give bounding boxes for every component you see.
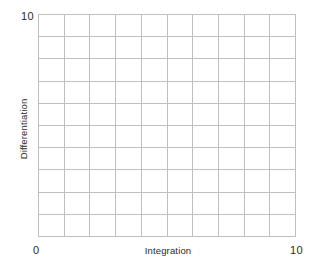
grid-cell[interactable] xyxy=(193,15,219,37)
grid-cell[interactable] xyxy=(270,82,296,104)
grid-cell[interactable] xyxy=(116,15,142,37)
grid-cell[interactable] xyxy=(245,126,271,148)
grid-cell[interactable] xyxy=(39,170,65,192)
grid-cell[interactable] xyxy=(116,170,142,192)
grid-cell[interactable] xyxy=(270,126,296,148)
grid-cell[interactable] xyxy=(65,215,91,237)
grid-cell[interactable] xyxy=(90,37,116,59)
grid-cell[interactable] xyxy=(39,59,65,81)
grid-cell[interactable] xyxy=(142,148,168,170)
grid-cell[interactable] xyxy=(142,82,168,104)
grid-cell[interactable] xyxy=(39,215,65,237)
grid-cell[interactable] xyxy=(116,37,142,59)
grid-cell[interactable] xyxy=(245,215,271,237)
grid-cell[interactable] xyxy=(39,148,65,170)
grid-cell[interactable] xyxy=(193,148,219,170)
grid-cell[interactable] xyxy=(270,37,296,59)
grid-cell[interactable] xyxy=(168,148,194,170)
grid-cell[interactable] xyxy=(142,126,168,148)
grid-cell[interactable] xyxy=(193,104,219,126)
grid-cell[interactable] xyxy=(39,104,65,126)
grid-cell[interactable] xyxy=(116,104,142,126)
grid-cell[interactable] xyxy=(270,170,296,192)
grid-cell[interactable] xyxy=(65,15,91,37)
grid-cell[interactable] xyxy=(90,193,116,215)
grid-cell[interactable] xyxy=(219,104,245,126)
grid-cell[interactable] xyxy=(90,215,116,237)
grid-cell[interactable] xyxy=(219,15,245,37)
grid-cell[interactable] xyxy=(65,104,91,126)
grid-cell[interactable] xyxy=(168,104,194,126)
grid-cell[interactable] xyxy=(116,59,142,81)
grid-cell[interactable] xyxy=(90,148,116,170)
grid-cell[interactable] xyxy=(219,148,245,170)
grid-cell[interactable] xyxy=(142,37,168,59)
grid-cell[interactable] xyxy=(39,126,65,148)
grid-cell[interactable] xyxy=(193,37,219,59)
grid-cell[interactable] xyxy=(90,59,116,81)
grid-cell[interactable] xyxy=(116,148,142,170)
grid-cell[interactable] xyxy=(270,148,296,170)
grid-cell[interactable] xyxy=(219,126,245,148)
grid-cell[interactable] xyxy=(65,170,91,192)
grid-cell[interactable] xyxy=(219,215,245,237)
grid-cell[interactable] xyxy=(142,104,168,126)
grid-cell[interactable] xyxy=(90,15,116,37)
grid-cell[interactable] xyxy=(168,82,194,104)
grid-cell[interactable] xyxy=(39,15,65,37)
grid-cell[interactable] xyxy=(142,215,168,237)
grid-cell[interactable] xyxy=(193,215,219,237)
grid-cell[interactable] xyxy=(219,59,245,81)
grid-cell[interactable] xyxy=(193,170,219,192)
grid-cell[interactable] xyxy=(245,170,271,192)
grid-cell[interactable] xyxy=(90,170,116,192)
grid-cell[interactable] xyxy=(168,193,194,215)
grid-cell[interactable] xyxy=(90,104,116,126)
grid-cell[interactable] xyxy=(65,82,91,104)
grid-cell[interactable] xyxy=(65,148,91,170)
grid-cell[interactable] xyxy=(245,37,271,59)
grid-cell[interactable] xyxy=(168,126,194,148)
grid-cell[interactable] xyxy=(219,193,245,215)
grid-cell[interactable] xyxy=(219,170,245,192)
grid-cell[interactable] xyxy=(65,126,91,148)
grid-cell[interactable] xyxy=(65,193,91,215)
grid-cell[interactable] xyxy=(193,59,219,81)
grid-cell[interactable] xyxy=(90,82,116,104)
grid-cell[interactable] xyxy=(116,126,142,148)
grid-cell[interactable] xyxy=(219,37,245,59)
grid-cell[interactable] xyxy=(270,193,296,215)
grid-cell[interactable] xyxy=(65,59,91,81)
grid-cell[interactable] xyxy=(193,82,219,104)
grid-cell[interactable] xyxy=(245,59,271,81)
grid-cell[interactable] xyxy=(168,215,194,237)
grid-cell[interactable] xyxy=(193,126,219,148)
grid-cell[interactable] xyxy=(39,193,65,215)
grid-cell[interactable] xyxy=(65,37,91,59)
grid-cell[interactable] xyxy=(245,82,271,104)
plot-grid[interactable] xyxy=(38,14,296,237)
grid-cell[interactable] xyxy=(142,15,168,37)
grid-cell[interactable] xyxy=(168,15,194,37)
grid-cell[interactable] xyxy=(245,15,271,37)
grid-cell[interactable] xyxy=(142,193,168,215)
grid-cell[interactable] xyxy=(270,59,296,81)
grid-cell[interactable] xyxy=(142,59,168,81)
grid-cell[interactable] xyxy=(142,170,168,192)
grid-cell[interactable] xyxy=(168,59,194,81)
grid-cell[interactable] xyxy=(270,215,296,237)
grid-cell[interactable] xyxy=(168,37,194,59)
grid-cell[interactable] xyxy=(270,104,296,126)
grid-cell[interactable] xyxy=(245,104,271,126)
grid-cell[interactable] xyxy=(168,170,194,192)
grid-cell[interactable] xyxy=(219,82,245,104)
grid-cell[interactable] xyxy=(116,215,142,237)
grid-cell[interactable] xyxy=(39,82,65,104)
grid-cell[interactable] xyxy=(245,193,271,215)
grid-cell[interactable] xyxy=(90,126,116,148)
grid-cell[interactable] xyxy=(39,37,65,59)
grid-cell[interactable] xyxy=(270,15,296,37)
grid-cell[interactable] xyxy=(245,148,271,170)
grid-cell[interactable] xyxy=(193,193,219,215)
grid-cell[interactable] xyxy=(116,193,142,215)
